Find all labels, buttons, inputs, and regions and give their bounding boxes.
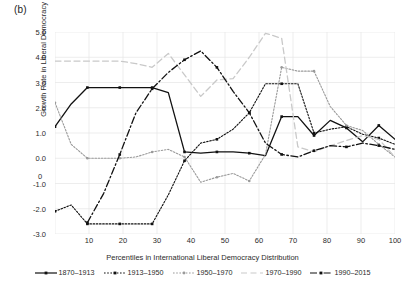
x-tick-label: 40 [187, 236, 195, 245]
y-tick-label: 0.0 [16, 154, 46, 163]
y-tick-label: 2.0 [16, 103, 46, 112]
x-axis-title: Percentiles in International Liberal Dem… [0, 253, 405, 262]
y-tick-label: 3.0 [16, 78, 46, 87]
y-tick-label: 5.0 [16, 28, 46, 37]
legend-item-1970-1990[interactable]: 1970–1990 [241, 268, 301, 277]
legend-swatch-1970-1990 [241, 269, 263, 277]
legend-label: 1990–2015 [334, 268, 370, 277]
legend-label: 1913–1950 [128, 268, 164, 277]
x-tick-label: 80 [323, 236, 331, 245]
legend-item-1913-1950[interactable]: 1913–1950 [104, 268, 164, 277]
panel-label: (b) [14, 4, 27, 15]
legend-swatch-1913-1950 [104, 269, 126, 277]
y-axis-title: Growth Rate in Liberal Democracy (%) [39, 0, 48, 138]
chart-legend: 1870–19131913–19501950–19701970–19901990… [0, 268, 405, 277]
x-tick-label: 30 [153, 236, 161, 245]
legend-label: 1970–1990 [265, 268, 301, 277]
legend-item-1870-1913[interactable]: 1870–1913 [35, 268, 95, 277]
x-tick-label: 60 [255, 236, 263, 245]
x-tick-label: 70 [289, 236, 297, 245]
legend-swatch-1950-1970 [173, 269, 195, 277]
x-tick-label: 10 [85, 236, 93, 245]
y-origin-marker: 0 [38, 172, 42, 181]
legend-swatch-1990-2015 [310, 269, 332, 277]
x-tick-label: 100 [389, 236, 402, 245]
y-tick-label: -3.0 [16, 230, 46, 239]
y-tick-label: 1.0 [16, 129, 46, 138]
legend-label: 1950–1970 [197, 268, 233, 277]
legend-label: 1870–1913 [59, 268, 95, 277]
y-tick-label: -2.0 [16, 204, 46, 213]
figure-panel-b: (b) Growth Rate in Liberal Democracy (%)… [0, 0, 405, 292]
x-tick-label: 20 [119, 236, 127, 245]
plot-area [55, 32, 395, 234]
chart-canvas [55, 32, 395, 234]
legend-item-1990-2015[interactable]: 1990–2015 [310, 268, 370, 277]
x-tick-label: 90 [357, 236, 365, 245]
y-tick-label: 4.0 [16, 53, 46, 62]
x-tick-label: 50 [221, 236, 229, 245]
legend-item-1950-1970[interactable]: 1950–1970 [173, 268, 233, 277]
legend-swatch-1870-1913 [35, 269, 57, 277]
